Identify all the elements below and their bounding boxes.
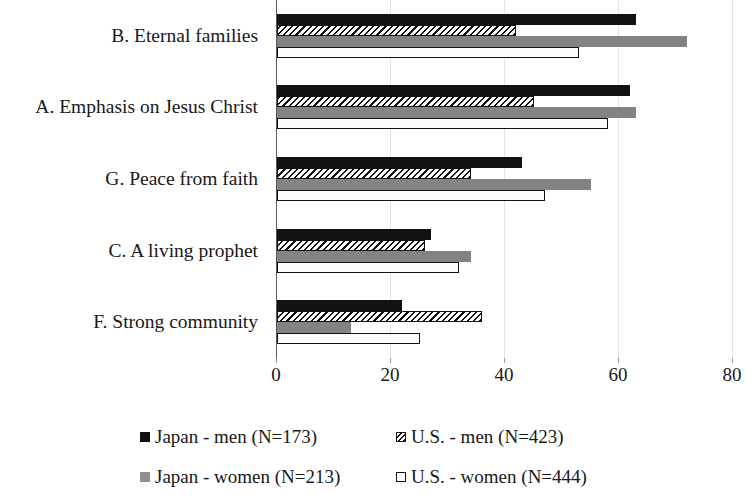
x-axis-tick-label: 40 bbox=[495, 364, 514, 386]
x-axis-tick bbox=[732, 358, 733, 363]
bar-us_men bbox=[277, 168, 471, 179]
gridline bbox=[732, 0, 733, 358]
bar-japan_women bbox=[277, 107, 636, 118]
solid-gray-swatch bbox=[140, 472, 150, 482]
bar-us_women bbox=[277, 47, 579, 58]
legend-item: Japan - men (N=173) bbox=[140, 426, 317, 448]
bar-japan_men bbox=[277, 300, 402, 311]
bar-us_men bbox=[277, 96, 534, 107]
legend-label: U.S. - men (N=423) bbox=[411, 426, 564, 448]
legend-label: U.S. - women (N=444) bbox=[411, 466, 587, 488]
category-label: F. Strong community bbox=[93, 312, 258, 332]
chart-legend: Japan - men (N=173)U.S. - men (N=423)Jap… bbox=[0, 418, 747, 503]
category-label: B. Eternal families bbox=[111, 26, 258, 46]
bar-japan_women bbox=[277, 36, 687, 47]
bar-chart: B. Eternal familiesA. Emphasis on Jesus … bbox=[0, 0, 747, 503]
legend-item: U.S. - women (N=444) bbox=[396, 466, 587, 488]
bar-japan_women bbox=[277, 251, 471, 262]
x-axis-tick bbox=[390, 358, 391, 363]
x-axis-tick bbox=[618, 358, 619, 363]
bar-japan_men bbox=[277, 157, 522, 168]
hatched-swatch bbox=[396, 432, 406, 442]
category-axis-labels: B. Eternal familiesA. Emphasis on Jesus … bbox=[0, 0, 268, 358]
bar-us_women bbox=[277, 190, 545, 201]
bar-us_women bbox=[277, 333, 420, 344]
x-axis-tick-label: 0 bbox=[271, 364, 281, 386]
bar-japan_men bbox=[277, 229, 431, 240]
solid-black-swatch bbox=[140, 432, 150, 442]
legend-label: Japan - women (N=213) bbox=[155, 466, 340, 488]
x-axis-tick bbox=[276, 358, 277, 363]
plot-area: 020406080 bbox=[276, 0, 732, 358]
bar-japan_men bbox=[277, 14, 636, 25]
category-label: A. Emphasis on Jesus Christ bbox=[35, 97, 258, 117]
bar-japan_women bbox=[277, 322, 351, 333]
x-axis-tick-label: 60 bbox=[609, 364, 628, 386]
bar-japan_men bbox=[277, 85, 630, 96]
bar-us_men bbox=[277, 240, 425, 251]
x-axis-tick-label: 20 bbox=[381, 364, 400, 386]
bar-us_women bbox=[277, 118, 608, 129]
category-label: C. A living prophet bbox=[108, 241, 258, 261]
bar-japan_women bbox=[277, 179, 591, 190]
legend-item: Japan - women (N=213) bbox=[140, 466, 340, 488]
category-label: G. Peace from faith bbox=[105, 169, 258, 189]
bar-us_men bbox=[277, 25, 516, 36]
x-axis-tick bbox=[504, 358, 505, 363]
legend-label: Japan - men (N=173) bbox=[155, 426, 317, 448]
outline-swatch bbox=[396, 472, 406, 482]
bar-us_women bbox=[277, 262, 459, 273]
bar-us_men bbox=[277, 311, 482, 322]
gridline bbox=[618, 0, 619, 358]
legend-item: U.S. - men (N=423) bbox=[396, 426, 564, 448]
x-axis-tick-label: 80 bbox=[723, 364, 742, 386]
